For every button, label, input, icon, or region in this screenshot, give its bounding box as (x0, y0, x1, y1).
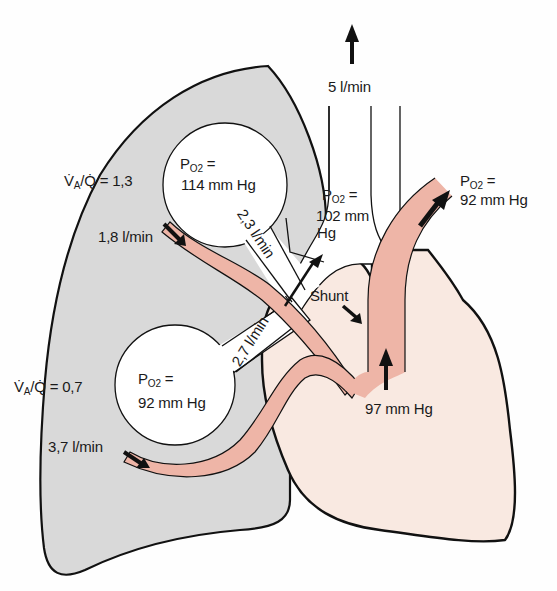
arterial-po2-value: 92 mm Hg (460, 191, 528, 208)
shunt-label: Shunt (310, 287, 348, 304)
total-ventilation-arrow (345, 24, 359, 64)
mixed-alveolar-po2-label: PO2 = (322, 186, 357, 208)
upper-alveolus-po2-label: PO2 = (180, 155, 215, 177)
upper-alveolus-po2-value: 114 mm Hg (181, 176, 256, 193)
total-flow-label: 5 l/min (328, 78, 371, 95)
va-q-diagram: 5 l/min V̇A/Q̇ = 1,3 PO2 = 114 mm Hg 1,8… (0, 0, 557, 591)
lower-alveolus-po2-label: PO2 = (138, 370, 173, 392)
diagram-artwork (0, 0, 557, 591)
upper-va-q-ratio-label: V̇A/Q̇ = 1,3 (64, 172, 132, 194)
upper-blood-flow-label: 1,8 l/min (98, 228, 153, 245)
pulmonary-vein-po2-label: 97 mm Hg (365, 400, 433, 417)
lower-blood-flow-label: 3,7 l/min (48, 438, 103, 455)
mixed-alveolar-po2-value: 102 mm (316, 207, 369, 224)
mixed-alveolar-po2-unit: Hg (317, 224, 336, 241)
lower-alveolus-po2-value: 92 mm Hg (138, 394, 206, 411)
lower-va-q-ratio-label: V̇A/Q̇ = 0,7 (14, 378, 82, 400)
lower-alveolus (115, 325, 235, 445)
